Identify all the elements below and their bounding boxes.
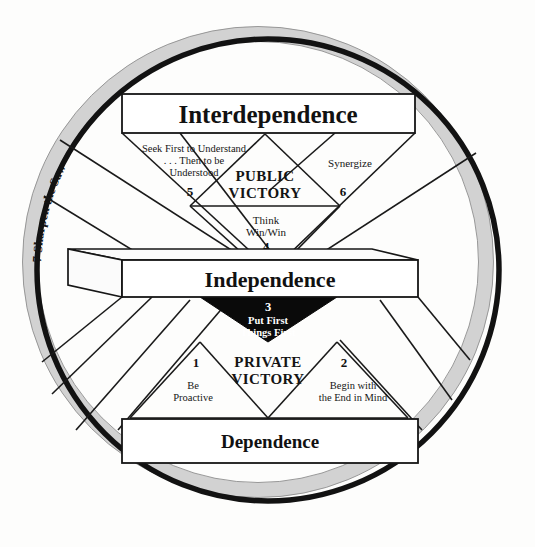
habit-1-line1: Be: [187, 380, 199, 391]
habit-4-line1: Think: [253, 214, 280, 226]
independence-panel: Independence: [68, 249, 418, 297]
seven-habits-diagram: Interdependence PUBLIC VICTORY Seek Firs…: [0, 0, 535, 547]
maturity-continuum-illustration: Interdependence PUBLIC VICTORY Seek Firs…: [0, 0, 535, 547]
private-victory-line1: PRIVATE: [234, 354, 301, 370]
habit-5-line2: . . . Then to be: [164, 155, 225, 166]
habit-5-line1: Seek First to Understand: [142, 143, 247, 154]
habit-6-group: Synergize 6: [328, 157, 372, 199]
habit-2-line2: the End in Mind: [319, 392, 388, 403]
habit-1-line2: Proactive: [173, 392, 213, 403]
habit-3-line1: Put First: [248, 315, 288, 326]
habit-5-line3: Understood: [170, 167, 220, 178]
habit-6-number: 6: [340, 184, 347, 199]
independence-label: Independence: [205, 267, 336, 292]
habit-5-number: 5: [187, 184, 194, 199]
private-victory-line2: VICTORY: [232, 371, 305, 387]
public-victory-line2: VICTORY: [229, 185, 302, 201]
habit-3-number: 3: [265, 300, 271, 314]
habit-3-line2: Things First: [240, 327, 296, 338]
interdependence-panel: Interdependence: [122, 94, 415, 133]
habit-2-line1: Begin with: [330, 380, 377, 391]
public-victory-group: PUBLIC VICTORY: [229, 168, 302, 201]
habit-2-number: 2: [341, 355, 348, 370]
habit-4-line2: Win/Win: [246, 226, 287, 238]
interdependence-label: Interdependence: [178, 101, 357, 128]
private-victory-group: PRIVATE VICTORY: [232, 354, 305, 387]
habit-1-group: 1 Be Proactive: [173, 355, 213, 403]
public-victory-line1: PUBLIC: [235, 168, 294, 184]
habit-2-group: 2 Begin with the End in Mind: [319, 355, 388, 403]
habit-1-number: 1: [193, 355, 200, 370]
habit-4-group: Think Win/Win 4: [246, 214, 287, 254]
dependence-panel: Dependence: [122, 419, 418, 463]
dependence-label: Dependence: [221, 431, 319, 452]
habit-6-line1: Synergize: [328, 157, 372, 169]
